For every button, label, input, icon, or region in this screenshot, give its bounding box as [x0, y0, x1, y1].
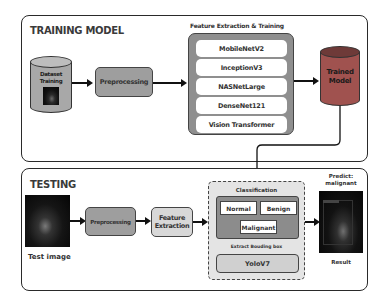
feature-extraction-line2: Extraction [155, 222, 190, 230]
training-preprocessing-label: Preprocessing [100, 78, 148, 86]
training-preprocessing-box: Preprocessing [95, 67, 153, 97]
trained-model-line1: Trained [320, 68, 360, 77]
training-title: TRAINING MODEL [30, 25, 124, 36]
model-mobilenetv2: MobileNetV2 [196, 40, 287, 57]
arrow-classification-to-result [305, 221, 317, 223]
result-image [319, 191, 363, 253]
dataset-training-cylinder: Dataset Training [30, 56, 72, 113]
arrow-preprocessing-to-features [153, 82, 184, 84]
bounding-box [323, 200, 353, 245]
predict-line2: malignant [318, 180, 364, 187]
classification-detection-container: Classification Normal Benign Malignant E… [208, 181, 305, 280]
model-densenet121: DenseNet121 [196, 97, 287, 114]
testing-feature-extraction-box: Feature Extraction [151, 207, 193, 237]
feature-extraction-line1: Feature [155, 214, 190, 222]
test-image [25, 195, 70, 247]
model-vision-transformer: Vision Transformer [196, 116, 287, 133]
class-normal: Normal [220, 201, 257, 215]
class-malignant: Malignant [240, 220, 277, 234]
yolov7-box: YoloV7 [216, 254, 299, 273]
bounding-box-tag [323, 200, 339, 203]
arrow-preprocessing-to-feature-extraction [136, 220, 148, 222]
arrow-features-to-trained-model [294, 80, 316, 82]
result-label: Result [318, 259, 364, 265]
dataset-label-line2: Training [30, 78, 72, 85]
trained-model-cylinder: Trained Model [320, 46, 360, 106]
test-image-label: Test image [28, 253, 71, 261]
arrow-test-image-to-preprocessing [70, 220, 83, 222]
arrow-feature-extraction-to-classification [193, 221, 205, 223]
testing-preprocessing-label: Preprocessing [90, 219, 130, 225]
dataset-label-line1: Dataset [30, 71, 72, 78]
testing-preprocessing-box: Preprocessing [85, 207, 136, 236]
feature-extraction-title: Feature Extraction & Training [190, 22, 284, 29]
classification-title: Classification [209, 187, 304, 193]
arrow-dataset-to-preprocessing [72, 82, 90, 84]
testing-title: TESTING [30, 179, 76, 190]
trained-model-line2: Model [320, 77, 360, 86]
testing-panel: TESTING [21, 168, 368, 291]
feature-extraction-container: MobileNetV2 InceptionV3 NASNetLarge Dens… [188, 33, 294, 135]
dataset-thumbnail [43, 87, 59, 105]
model-inceptionv3: InceptionV3 [196, 59, 287, 76]
predict-label: Predict: malignant [318, 173, 364, 187]
bbox-title: Extract Bouding box [209, 244, 304, 249]
class-benign: Benign [260, 201, 297, 215]
model-nasnetlarge: NASNetLarge [196, 78, 287, 95]
predict-line1: Predict: [318, 173, 364, 180]
classification-box: Normal Benign Malignant [216, 196, 299, 239]
yolov7-label: YoloV7 [245, 260, 270, 268]
